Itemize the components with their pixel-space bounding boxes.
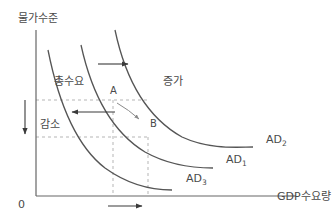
point-label-a: A xyxy=(110,85,117,96)
aggregate-demand-diagram: 물가수준 GDP수요량 0 AD3 AD1 AD2 A B 총수요 증가 감소 xyxy=(0,0,336,224)
annotation-aggregate-demand: 총수요 xyxy=(54,75,84,88)
demand-curves xyxy=(48,30,253,190)
point-label-b: B xyxy=(150,118,157,129)
point-labels: A B xyxy=(110,85,157,129)
guide-lines xyxy=(36,100,148,196)
a-to-b-arrow xyxy=(117,103,139,119)
axes xyxy=(36,30,288,196)
annotation-decrease: 감소 xyxy=(40,118,60,131)
annotation-increase: 증가 xyxy=(163,75,183,88)
curve-label-ad3: AD3 xyxy=(186,172,207,187)
y-axis-label: 물가수준 xyxy=(18,12,58,25)
x-axis-label: GDP수요량 xyxy=(277,190,331,203)
curve-ad2 xyxy=(115,30,253,147)
curve-label-ad1: AD1 xyxy=(226,153,247,168)
origin-label: 0 xyxy=(18,198,25,211)
chart-canvas: 물가수준 GDP수요량 0 AD3 AD1 AD2 A B 총수요 증가 감소 xyxy=(0,0,336,224)
curve-label-ad2: AD2 xyxy=(266,133,287,148)
curve-labels: AD3 AD1 AD2 xyxy=(186,133,287,187)
